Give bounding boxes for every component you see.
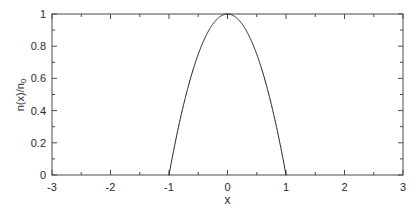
x-tick-label: 2 xyxy=(341,182,347,193)
plot-frame xyxy=(52,14,403,175)
x-tick-label: -1 xyxy=(164,182,174,193)
x-tick-label: -2 xyxy=(106,182,116,193)
y-axis-label: n(x)/n0 xyxy=(15,78,26,111)
y-tick-label: 0 xyxy=(0,170,46,181)
x-tick-label: -3 xyxy=(47,182,57,193)
x-tick-label: 0 xyxy=(224,182,230,193)
y-tick-label: 1 xyxy=(0,9,46,20)
y-tick-label: 0.2 xyxy=(0,137,46,148)
x-axis-label: x xyxy=(225,194,231,206)
x-tick-label: 3 xyxy=(400,182,406,193)
x-tick-label: 1 xyxy=(283,182,289,193)
y-tick-label: 0.8 xyxy=(0,41,46,52)
plot-canvas xyxy=(0,0,419,213)
chart-figure: -3-2-10123 00.20.40.60.81 x n(x)/n0 xyxy=(0,0,419,213)
plot-border xyxy=(52,14,403,175)
